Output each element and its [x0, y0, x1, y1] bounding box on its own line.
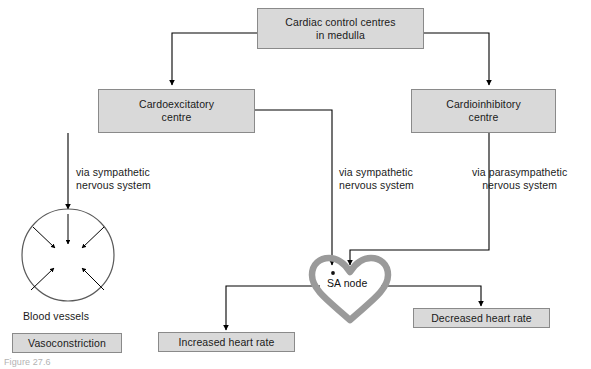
figure-canvas: Cardiac control centres in medulla Cardo… [0, 0, 591, 369]
node-cardoexcitatory-line1: Cardoexcitatory [139, 98, 214, 111]
label-blood-vessels: Blood vessels [23, 310, 89, 323]
edge-label-via-parasympathetic-right: via parasympathetic nervous system [472, 166, 567, 192]
node-cardioinhibitory-line2: centre [446, 111, 521, 124]
node-cardioinhibitory-line1: Cardioinhibitory [446, 98, 521, 111]
edge-label-via-sympathetic-middle: via sympathetic nervous system [339, 166, 414, 192]
node-increased-heart-rate[interactable]: Increased heart rate [158, 332, 295, 352]
sa-node-dot [331, 271, 335, 275]
edge-control-to-inhibitory [424, 33, 489, 85]
node-increased-heart-rate-label: Increased heart rate [179, 336, 275, 349]
edge-label-via-sympathetic-left: via sympathetic nervous system [76, 166, 151, 192]
label-sa-node: SA node [327, 277, 367, 289]
edge-excitatory-to-sanode [255, 110, 332, 265]
node-decreased-heart-rate-label: Decreased heart rate [431, 312, 532, 325]
vessel-arrow-bottomleft [31, 268, 54, 290]
vessel-arrow-bottomright [82, 268, 104, 290]
edge-sanode-to-decreased [381, 286, 481, 306]
node-vasoconstriction[interactable]: Vasoconstriction [12, 333, 122, 353]
node-cardioinhibitory-centre[interactable]: Cardioinhibitory centre [411, 89, 556, 133]
figure-caption: Figure 27.6 [4, 357, 51, 368]
node-cardoexcitatory-line2: centre [139, 111, 214, 124]
node-vasoconstriction-label: Vasoconstriction [28, 337, 106, 350]
blood-vessel-circle [22, 209, 114, 301]
edge-inhibitory-to-sanode [350, 133, 489, 265]
node-cardiac-control-centres[interactable]: Cardiac control centres in medulla [257, 8, 424, 49]
node-decreased-heart-rate[interactable]: Decreased heart rate [413, 308, 550, 328]
vessel-arrow-topleft [33, 227, 55, 248]
edge-control-to-excitatory [172, 33, 257, 85]
heart-icon [312, 258, 388, 320]
node-cardiac-control-line2: in medulla [285, 29, 395, 42]
node-cardoexcitatory-centre[interactable]: Cardoexcitatory centre [98, 89, 255, 133]
edge-sanode-to-increased [226, 286, 320, 330]
node-cardiac-control-line1: Cardiac control centres [285, 16, 395, 29]
vessel-arrow-topright [82, 227, 104, 248]
